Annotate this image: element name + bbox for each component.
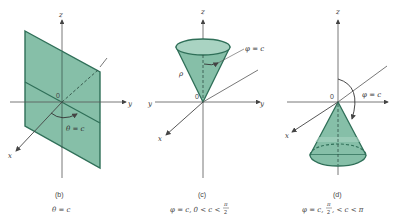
- panel-c: z y x 0 ρ φ = c (c) φ = c, 0 < c < π 2: [147, 8, 264, 215]
- origin-label: 0: [56, 92, 60, 99]
- half-plane-surface: [25, 31, 100, 168]
- origin-label: 0: [195, 93, 199, 100]
- rho-label: ρ: [178, 70, 184, 78]
- panel-b-caption: θ = c: [52, 206, 71, 214]
- phi-annotation: φ = c: [362, 91, 381, 99]
- z-axis-label: z: [335, 8, 340, 16]
- x-axis-label: x: [158, 135, 162, 143]
- panel-d-label: (d): [333, 191, 342, 199]
- panel-b: z x 0 θ = c (b) θ = c: [8, 11, 126, 214]
- z-axis-label: z: [200, 8, 205, 16]
- panel-c-caption: φ = c, 0 < c <: [170, 206, 221, 214]
- ray-extension: [100, 58, 107, 67]
- panel-b-label: (b): [55, 191, 64, 199]
- panel-d-frac-den: 2: [327, 209, 330, 215]
- panel-d-caption-pre: φ = c,: [302, 206, 323, 214]
- panel-d-caption-post: , < c < π: [332, 206, 364, 214]
- panel-c-frac-num: π: [223, 201, 228, 207]
- x-axis: [166, 102, 203, 135]
- spherical-coordinate-surfaces-figure: z x 0 θ = c (b) θ = c z y x 0 ρ φ = c (c…: [0, 0, 394, 222]
- panel-c-frac-den: 2: [224, 209, 227, 215]
- y-axis-label: y: [147, 100, 153, 108]
- cone-top-ellipse: [176, 39, 230, 55]
- panel-b-y-axis-label: y: [127, 100, 133, 108]
- phi-annotation: φ = c: [245, 45, 264, 53]
- y-axis-label: y: [259, 100, 265, 108]
- panel-c-label: (c): [198, 191, 206, 199]
- theta-annotation: θ = c: [66, 125, 85, 133]
- x-axis-label: x: [285, 132, 289, 140]
- z-axis-label: z: [58, 11, 63, 19]
- panel-d: z y x 0 φ = c (d) φ = c, π 2 , < c < π: [259, 8, 388, 215]
- panel-d-frac-num: π: [326, 201, 331, 207]
- origin-label: 0: [330, 93, 334, 100]
- x-axis-label: x: [8, 152, 12, 160]
